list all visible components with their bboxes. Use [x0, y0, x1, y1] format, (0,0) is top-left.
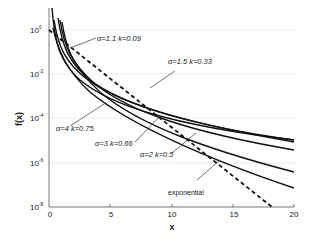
- annotation-alpha-1.5: α=1.5 k=0.33: [168, 57, 213, 66]
- x-tick-labels: 0 5 10 15 20: [48, 210, 299, 219]
- annotation-alpha-2: α=2 k=0.5: [140, 150, 174, 159]
- svg-text:15: 15: [230, 210, 239, 219]
- annotation-alpha-3: α=3 k=0.66: [95, 139, 133, 148]
- annotation-alpha-4: α=4 k=0.75: [56, 124, 94, 133]
- svg-text:10-6: 10-6: [30, 157, 44, 168]
- chart: 100 10-2 10-4 10-6 10-8 0 5 10 15 20 x f…: [0, 0, 313, 242]
- annotation-alpha-1.1: α=1.1 k=0.09: [97, 34, 142, 43]
- series-exponential: [49, 30, 272, 207]
- svg-text:5: 5: [109, 210, 114, 219]
- svg-text:10: 10: [168, 210, 177, 219]
- svg-text:10-8: 10-8: [30, 201, 44, 212]
- y-axis-label: f(x): [14, 112, 24, 126]
- x-axis-label: x: [169, 222, 174, 232]
- annotation-exponential: exponential: [168, 189, 204, 197]
- series-lines: [52, 8, 294, 188]
- svg-text:100: 100: [30, 24, 42, 35]
- series-alpha-4: [53, 28, 294, 188]
- y-tick-labels: 100 10-2 10-4 10-6 10-8: [30, 24, 44, 212]
- svg-text:0: 0: [48, 210, 53, 219]
- svg-text:10-4: 10-4: [30, 112, 44, 123]
- svg-text:20: 20: [290, 210, 299, 219]
- svg-text:10-2: 10-2: [30, 68, 44, 79]
- axes: [49, 8, 294, 207]
